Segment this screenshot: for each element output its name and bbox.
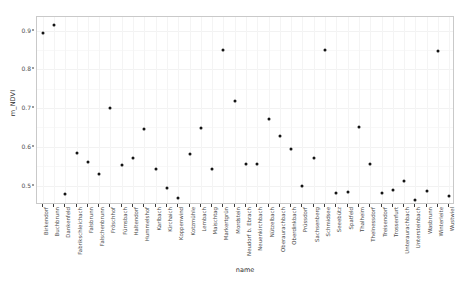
y-axis-tick-mark — [32, 184, 35, 185]
x-axis-tick-label: Thelnessdorf — [371, 207, 376, 242]
data-point — [154, 167, 157, 170]
x-axis-tick-label: Seeebütz — [337, 207, 342, 232]
x-axis-tick-label: Schmidsee — [326, 207, 331, 236]
data-point — [324, 48, 327, 51]
x-axis-tick-label: Fröschhof — [111, 207, 116, 233]
data-point — [98, 172, 101, 175]
data-point — [245, 162, 248, 165]
grid-line-category — [235, 17, 236, 203]
grid-line-category — [393, 17, 394, 203]
data-point — [414, 198, 417, 201]
data-point — [369, 162, 372, 165]
y-axis-tick-label: 0.6 — [21, 142, 31, 149]
data-point — [346, 190, 349, 193]
x-axis-tick-label: Birkendorf — [44, 207, 49, 235]
grid-line-category — [427, 17, 428, 203]
grid-line-category — [167, 17, 168, 203]
grid-line-category — [54, 17, 55, 203]
grid-line-category — [404, 17, 405, 203]
x-axis-tick-label: Oberaurachbach — [281, 207, 286, 252]
grid-line-category — [43, 17, 44, 203]
grid-line-category — [336, 17, 337, 203]
grid-line-category — [133, 17, 134, 203]
x-axis-tick-label: Wustwiel — [450, 207, 455, 231]
grid-line-category — [449, 17, 450, 203]
grid-line-category — [370, 17, 371, 203]
x-axis-tick-label: Unteraurachbach — [405, 207, 410, 254]
data-point — [278, 135, 281, 138]
y-axis-tick-label: 0.7 — [21, 104, 31, 111]
x-axis-tick-label: Spatfeld — [349, 207, 354, 229]
x-axis-tick-label: Lembach — [202, 207, 207, 232]
grid-line-category — [77, 17, 78, 203]
x-axis-tick-label: Winterleite — [439, 207, 444, 237]
grid-line-category — [65, 17, 66, 203]
x-axis-tick-label: Trossenfurt — [394, 207, 399, 237]
grid-line-category — [302, 17, 303, 203]
data-point — [256, 162, 259, 165]
grid-line-category — [382, 17, 383, 203]
x-axis-tick-label: Koppenwind — [179, 207, 184, 240]
data-point — [120, 163, 123, 166]
grid-line-category — [99, 17, 100, 203]
data-point — [233, 100, 236, 103]
data-point — [312, 156, 315, 159]
data-point — [41, 32, 44, 35]
x-axis-tick-label: Falsbrunn — [89, 207, 94, 233]
scatter-plot-figure: m_NDVI 0.50.60.70.80.9 BirkendorfBuchbru… — [0, 0, 460, 288]
data-point — [132, 157, 135, 160]
grid-line-category — [88, 17, 89, 203]
x-axis-tick-label: Treisendorf — [383, 207, 388, 237]
data-point — [335, 191, 338, 194]
data-point — [143, 128, 146, 131]
y-axis-title-text: m_NDVI — [9, 89, 17, 115]
x-axis-tick-label: Nützelbach — [270, 207, 275, 237]
grid-line-category — [325, 17, 326, 203]
x-axis-tick-label: Mordstein — [236, 207, 241, 234]
x-axis-tick-label: Neudorf b. Ebrach — [247, 207, 252, 256]
grid-line-category — [178, 17, 179, 203]
x-axis-tick-label: Kotzmühle — [191, 207, 196, 235]
data-point — [211, 167, 214, 170]
grid-line-category — [415, 17, 416, 203]
grid-line-category — [269, 17, 270, 203]
grid-line-category — [223, 17, 224, 203]
grid-line-category — [201, 17, 202, 203]
y-axis-tick-label: 0.9 — [21, 26, 31, 33]
data-point — [380, 191, 383, 194]
y-axis-tick-label: 0.5 — [21, 181, 31, 188]
x-axis-tick-label: Karlbach — [157, 207, 162, 231]
data-point — [267, 118, 270, 121]
data-point — [64, 192, 67, 195]
y-axis-tick-mark — [32, 29, 35, 30]
x-axis-tick-label: Untersteinbach — [416, 207, 421, 248]
grid-line-category — [190, 17, 191, 203]
grid-line-category — [212, 17, 213, 203]
x-axis-tick-label: Dankenfeld — [66, 207, 71, 238]
x-axis-title: name — [36, 266, 454, 274]
x-axis-tick-label: Maischtag — [213, 207, 218, 234]
x-axis-tick-label: Kirchaich — [168, 207, 173, 232]
data-point — [437, 50, 440, 53]
x-axis-tick-label: Sachsenberg — [315, 207, 320, 242]
x-axis-tick-label: Haltendorf — [134, 207, 139, 236]
grid-line-category — [314, 17, 315, 203]
data-point — [177, 197, 180, 200]
y-axis-tick-mark — [32, 107, 35, 108]
x-axis-tick-label: Hummelshof — [145, 207, 150, 241]
data-point — [188, 153, 191, 156]
data-point — [448, 194, 451, 197]
grid-line-category — [257, 17, 258, 203]
x-axis-tick-label: Markertgrün — [224, 207, 229, 240]
x-axis-tick-label: Prüssdorf — [303, 207, 308, 232]
x-axis-tick-label: Fürnsbach — [123, 207, 128, 235]
grid-line-category — [291, 17, 292, 203]
grid-line-category — [280, 17, 281, 203]
plot-panel — [36, 16, 454, 204]
x-axis-tick-label: Buchbrunn — [55, 207, 60, 236]
data-point — [301, 185, 304, 188]
grid-line-category — [359, 17, 360, 203]
data-point — [403, 179, 406, 182]
grid-line-category — [110, 17, 111, 203]
data-point — [357, 125, 360, 128]
